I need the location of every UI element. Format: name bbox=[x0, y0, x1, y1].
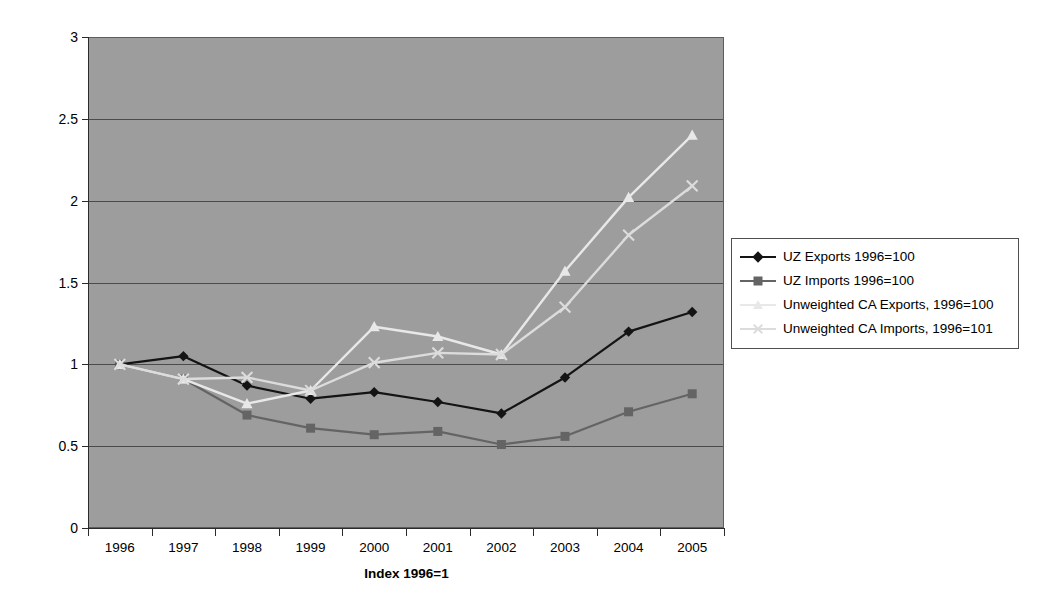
data-point-marker bbox=[369, 387, 379, 397]
legend-item[interactable]: Unweighted CA Exports, 1996=100 bbox=[738, 293, 1012, 317]
legend-item-label: UZ Exports 1996=100 bbox=[783, 249, 915, 265]
data-point-marker bbox=[433, 427, 442, 436]
legend-marker-diamond-icon bbox=[752, 251, 763, 262]
data-series bbox=[115, 307, 698, 419]
series-line bbox=[120, 186, 692, 391]
data-point-marker bbox=[688, 389, 697, 398]
series-line bbox=[120, 312, 692, 413]
data-point-marker bbox=[433, 397, 443, 407]
legend-item[interactable]: UZ Exports 1996=100 bbox=[738, 245, 1012, 269]
legend-item[interactable]: UZ Imports 1996=100 bbox=[738, 269, 1012, 293]
data-point-marker bbox=[497, 440, 506, 449]
legend-item-label: Unweighted CA Exports, 1996=100 bbox=[783, 297, 994, 313]
series-line bbox=[120, 364, 692, 444]
data-point-marker bbox=[687, 307, 697, 317]
legend-key-square-icon bbox=[738, 272, 778, 290]
legend-marker-triangle-icon bbox=[753, 300, 763, 309]
legend-marker-square-icon bbox=[754, 277, 763, 286]
data-point-marker bbox=[560, 302, 571, 313]
data-point-marker bbox=[178, 351, 188, 361]
data-point-marker bbox=[370, 430, 379, 439]
series-line bbox=[120, 135, 692, 403]
data-point-marker bbox=[496, 408, 506, 418]
data-point-marker bbox=[306, 424, 315, 433]
data-point-marker bbox=[624, 407, 633, 416]
legend-key-triangle-icon bbox=[738, 296, 778, 314]
legend-item-label: UZ Imports 1996=100 bbox=[783, 273, 914, 289]
data-point-marker bbox=[687, 130, 698, 140]
data-series bbox=[115, 360, 696, 449]
data-point-marker bbox=[623, 230, 634, 241]
data-point-marker bbox=[687, 181, 698, 192]
data-point-marker bbox=[243, 411, 252, 420]
legend-item-label: Unweighted CA Imports, 1996=101 bbox=[783, 321, 993, 337]
chart-container: 00.511.522.53 19961997199819992000200120… bbox=[0, 0, 1037, 602]
legend-key-diamond-icon bbox=[738, 248, 778, 266]
legend-key-cross-icon bbox=[738, 320, 778, 338]
legend-item[interactable]: Unweighted CA Imports, 1996=101 bbox=[738, 317, 1012, 341]
data-series bbox=[114, 130, 698, 409]
data-point-marker bbox=[561, 432, 570, 441]
legend: UZ Exports 1996=100UZ Imports 1996=100Un… bbox=[731, 238, 1019, 349]
